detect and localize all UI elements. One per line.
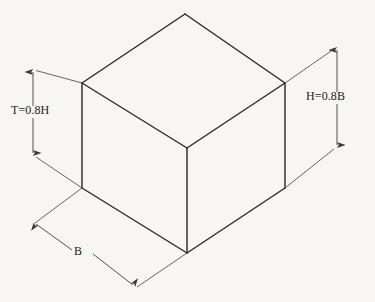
diagram-canvas: T=0.8H H=0.8B B	[0, 0, 375, 302]
box-faces	[82, 14, 285, 253]
dimension-label-breadth: B	[74, 245, 82, 257]
box-figure-svg	[0, 0, 375, 302]
extension-line-height-bottom	[285, 149, 334, 188]
dimension-label-height: H=0.8B	[306, 90, 345, 102]
extension-line-breadth-right	[137, 253, 187, 287]
extension-line-height-top	[285, 49, 334, 83]
dimension-line-breadth-right-half	[93, 254, 133, 285]
dimension-height	[285, 49, 337, 188]
dimension-line-breadth-left-half	[36, 224, 72, 250]
dimension-thickness	[33, 71, 82, 189]
extension-line-thickness-bottom	[36, 157, 82, 188]
extension-line-breadth-left	[35, 188, 82, 223]
extension-line-thickness-top	[36, 71, 82, 84]
dimension-label-thickness: T=0.8H	[11, 104, 49, 116]
